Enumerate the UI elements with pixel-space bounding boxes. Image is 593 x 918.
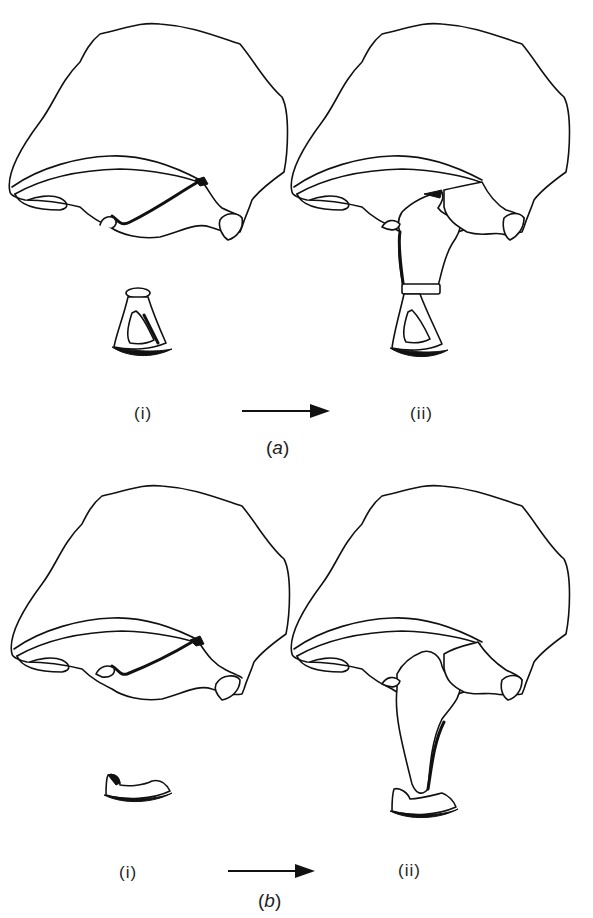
label-b-i: (i): [119, 863, 137, 883]
ossicle-reconstruction-diagram: [0, 0, 593, 918]
panel-a-i-incus-malleus: [9, 24, 287, 240]
caption-b: (b): [258, 890, 281, 912]
stapes-footplate: [104, 774, 172, 801]
arrow-a: [242, 404, 330, 418]
label-a-ii: (ii): [410, 404, 433, 424]
panel-b-ii-reconstruction: [291, 486, 569, 794]
label-a-i: (i): [134, 404, 152, 424]
label-b-ii: (ii): [398, 861, 421, 881]
stapes-under-graft: [390, 294, 448, 357]
stapes-intact: [112, 288, 172, 356]
panel-b-i-incus-malleus: [11, 486, 289, 700]
caption-a: (a): [266, 437, 289, 459]
arrow-b: [228, 864, 315, 878]
panel-a-ii-reconstruction: [291, 24, 569, 294]
